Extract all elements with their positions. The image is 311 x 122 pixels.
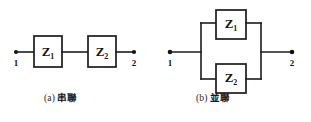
parallel-right-terminal-dot	[290, 50, 295, 55]
series-circuit-group: Z1 Z2 1 2	[14, 36, 137, 68]
caption-parallel: (b)並聯	[196, 90, 230, 104]
circuit-figure: Z1 Z2 1 2 Z1 Z2 1 2 (a)	[0, 0, 311, 122]
series-right-terminal-dot	[132, 50, 136, 54]
caption-series: (a)串聯	[44, 90, 78, 104]
series-terminal-label-1: 1	[14, 58, 19, 68]
caption-series-tag: (a)	[44, 93, 55, 103]
series-terminal-label-2: 2	[132, 58, 137, 68]
parallel-terminal-label-2: 2	[290, 58, 295, 68]
parallel-terminal-label-1: 1	[168, 58, 173, 68]
caption-parallel-name: 並聯	[210, 93, 230, 103]
caption-parallel-tag: (b)	[196, 93, 208, 103]
parallel-circuit-group: Z1 Z2 1 2	[168, 10, 295, 93]
caption-series-name: 串聯	[57, 93, 77, 103]
